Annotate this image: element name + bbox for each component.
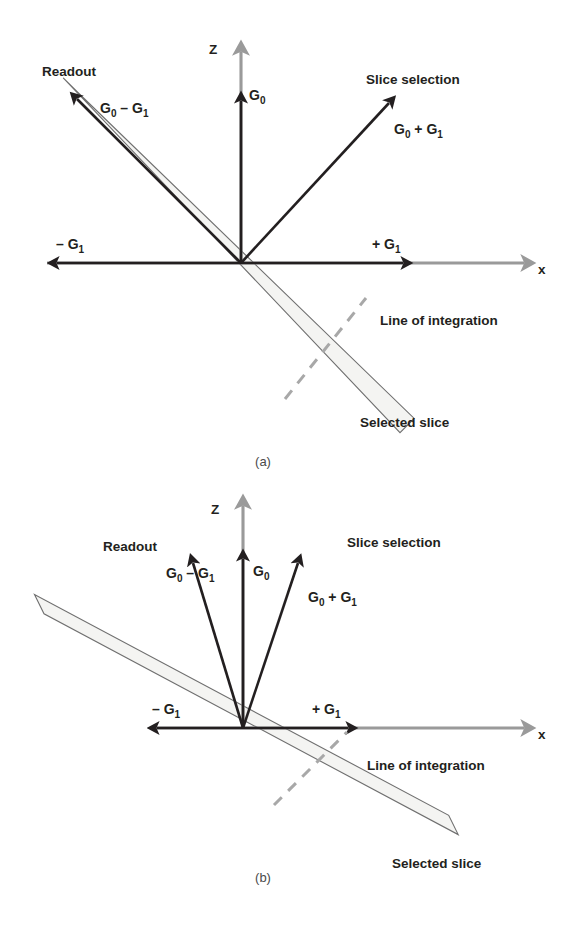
panel-b: Z x Readout Slice selection Selected sli…: [0, 470, 572, 929]
readout-vector-label: G0 – G1: [166, 565, 215, 584]
svg-text:G0 + G1: G0 + G1: [308, 589, 357, 608]
svg-text:G0 – G1: G0 – G1: [100, 100, 149, 119]
svg-text:+ G1: + G1: [312, 701, 341, 720]
plus-g1-label: + G1: [312, 701, 341, 720]
panel-a-caption: (a): [255, 454, 271, 469]
panel-b-caption: (b): [255, 870, 271, 885]
figure-container: Z x Readout Slice selection Selected sli…: [0, 0, 572, 929]
slice-selection-label: Slice selection: [366, 72, 460, 87]
plus-g1-label: + G1: [372, 236, 401, 255]
slice-selection-label: Slice selection: [347, 535, 441, 550]
svg-text:– G1: – G1: [152, 701, 181, 720]
x-axis-label: x: [538, 727, 546, 742]
svg-text:– G1: – G1: [56, 236, 85, 255]
slice-selection-vector: [243, 563, 298, 728]
readout-vector-label: G0 – G1: [100, 100, 149, 119]
x-axis-label: x: [538, 262, 546, 277]
slice-selection-vector: [241, 103, 389, 263]
z-axis-label: Z: [209, 42, 217, 57]
line-of-integration-label: Line of integration: [380, 313, 498, 328]
z-axis-label: Z: [211, 502, 219, 517]
svg-text:G0 – G1: G0 – G1: [166, 565, 215, 584]
readout-label: Readout: [103, 539, 158, 554]
svg-text:G0: G0: [249, 87, 266, 106]
line-of-integration-label: Line of integration: [367, 758, 485, 773]
readout-vector: [77, 99, 241, 263]
slice-selection-vector-label: G0 + G1: [308, 589, 357, 608]
g0-vector-label: G0: [253, 563, 270, 582]
svg-text:+ G1: + G1: [372, 236, 401, 255]
g0-vector-label: G0: [249, 87, 266, 106]
svg-text:G0 + G1: G0 + G1: [394, 121, 443, 140]
minus-g1-label: – G1: [56, 236, 85, 255]
selected-slice-label: Selected slice: [360, 415, 450, 430]
readout-label: Readout: [42, 64, 97, 79]
svg-text:G0: G0: [253, 563, 270, 582]
panel-a: Z x Readout Slice selection Selected sli…: [0, 0, 572, 470]
slice-selection-vector-label: G0 + G1: [394, 121, 443, 140]
minus-g1-label: – G1: [152, 701, 181, 720]
selected-slice-label: Selected slice: [392, 856, 482, 871]
